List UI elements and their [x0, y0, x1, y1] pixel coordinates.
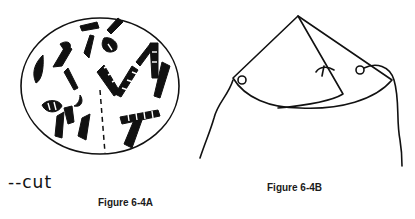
left-string-loop — [238, 76, 246, 84]
decorative-shapes — [34, 18, 170, 148]
figure-6-4b-caption: Figure 6-4B — [267, 182, 322, 193]
right-string-loop — [356, 66, 364, 74]
cone-outline — [233, 16, 392, 108]
cut-line — [100, 90, 105, 153]
decorated-circle-drawing — [0, 0, 200, 160]
left-string — [200, 80, 233, 158]
paper-circle-outline — [21, 18, 179, 154]
cut-legend-label: --cut — [8, 172, 52, 192]
fastener-mark — [316, 67, 334, 72]
figure-6-4a-caption: Figure 6-4A — [98, 197, 153, 208]
cone-drawing — [190, 0, 415, 175]
figure-6-4b: Figure 6-4B — [190, 0, 415, 219]
cone-seam — [278, 16, 343, 108]
right-string — [364, 65, 402, 166]
figure-6-4a: --cut Figure 6-4A — [0, 0, 200, 219]
